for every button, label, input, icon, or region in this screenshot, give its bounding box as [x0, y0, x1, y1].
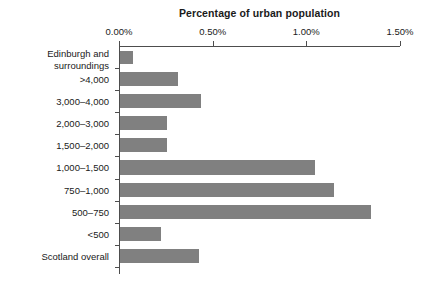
y-axis-tick — [115, 267, 119, 268]
category-label: 1,000–1,500 — [4, 162, 109, 174]
x-axis-tick — [119, 41, 120, 46]
bar — [120, 51, 133, 64]
category-label: <500 — [4, 229, 109, 241]
bar — [120, 249, 199, 263]
x-axis-tick-label: 1.50% — [387, 26, 414, 37]
x-axis-tick — [306, 41, 307, 46]
y-axis-tick — [115, 179, 119, 180]
x-axis-tick-label: 0.00% — [106, 26, 133, 37]
category-label: 3,000–4,000 — [4, 96, 109, 108]
y-axis-tick — [115, 223, 119, 224]
category-label: >4,000 — [4, 74, 109, 86]
y-axis-tick — [115, 134, 119, 135]
category-label: 2,000–3,000 — [4, 118, 109, 130]
plot-area: 0.00% 0.50% 1.00% 1.50% — [119, 46, 400, 274]
bar — [120, 160, 315, 175]
y-axis-tick — [115, 201, 119, 202]
category-label: 1,500–2,000 — [4, 140, 109, 152]
bar — [120, 116, 167, 130]
x-axis-tick — [213, 41, 214, 46]
y-axis-tick — [115, 90, 119, 91]
y-axis-tick — [115, 112, 119, 113]
x-axis-tick — [400, 41, 401, 46]
bar — [120, 94, 201, 108]
bar — [120, 205, 371, 219]
chart-title: Percentage of urban population — [119, 7, 400, 19]
x-axis-line — [119, 46, 400, 47]
y-axis-tick — [115, 245, 119, 246]
x-axis-tick-label: 0.50% — [199, 26, 226, 37]
y-axis-tick — [115, 156, 119, 157]
x-axis-tick-label: 1.00% — [293, 26, 320, 37]
bar — [120, 72, 178, 86]
category-label: Edinburgh and surroundings — [4, 48, 109, 71]
category-axis-labels: Edinburgh and surroundings >4,000 3,000–… — [0, 46, 119, 274]
bar-chart: Percentage of urban population Size of t… — [0, 0, 434, 290]
category-label: 750–1,000 — [4, 185, 109, 197]
bar — [120, 227, 161, 241]
category-label: Scotland overall — [4, 251, 109, 263]
bar — [120, 138, 167, 152]
category-label: 500–750 — [4, 207, 109, 219]
bar — [120, 183, 334, 197]
y-axis-tick — [115, 68, 119, 69]
